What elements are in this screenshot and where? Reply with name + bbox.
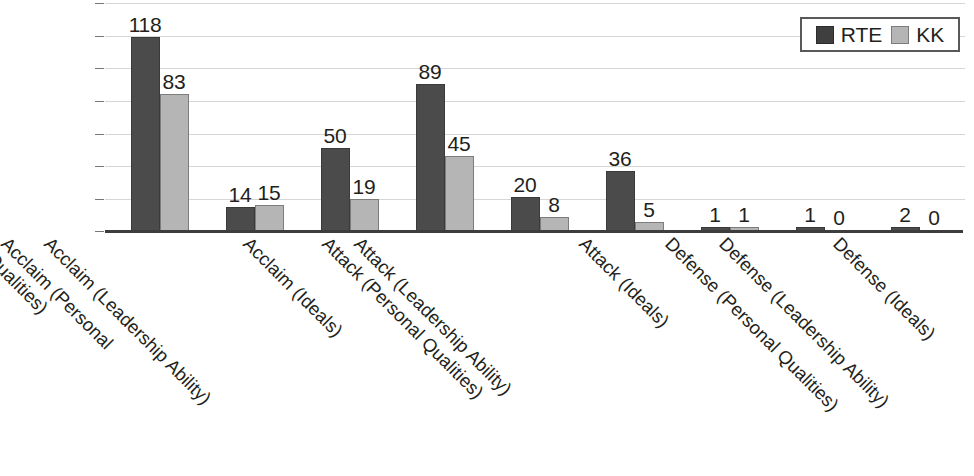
bar-rte[interactable] bbox=[131, 37, 160, 232]
x-axis-label: Attack (Personal Qualities) bbox=[318, 233, 488, 403]
bar-value-label: 118 bbox=[115, 14, 175, 35]
bar-value-label: 36 bbox=[590, 148, 650, 169]
bar-group: 11883 bbox=[131, 3, 189, 232]
bar-group: 1415 bbox=[226, 3, 284, 232]
bar-value-label: 83 bbox=[144, 71, 204, 92]
bar-value-label: 5 bbox=[619, 199, 679, 220]
bar-rte[interactable] bbox=[226, 207, 255, 232]
bar-value-label: 19 bbox=[334, 176, 394, 197]
bar-group: 208 bbox=[511, 3, 569, 232]
bar-value-label: 8 bbox=[524, 194, 584, 215]
legend-label-kk: KK bbox=[916, 24, 944, 45]
y-axis-tick bbox=[95, 134, 104, 135]
bar-value-label: 0 bbox=[809, 207, 869, 228]
bar-value-label: 1 bbox=[714, 204, 774, 225]
bar-rte[interactable] bbox=[416, 84, 445, 232]
legend-swatch-rte-icon bbox=[816, 26, 834, 44]
y-axis-tick bbox=[95, 199, 104, 200]
legend-label-rte: RTE bbox=[841, 24, 883, 45]
bar-value-label: 15 bbox=[239, 182, 299, 203]
y-axis-tick bbox=[95, 166, 104, 167]
x-axis-category-labels: Acclaim (Personal Qualities)Acclaim (Lea… bbox=[0, 233, 974, 476]
y-axis-tick bbox=[95, 68, 104, 69]
x-axis-label: Attack (Leadership Ability) bbox=[350, 233, 516, 399]
legend-entry-rte[interactable]: RTE bbox=[816, 24, 883, 45]
legend-entry-kk[interactable]: KK bbox=[891, 24, 944, 45]
bar-kk[interactable] bbox=[445, 156, 474, 232]
bar-group: 5019 bbox=[321, 3, 379, 232]
y-axis-tick bbox=[95, 231, 104, 232]
legend-swatch-kk-icon bbox=[891, 26, 909, 44]
bar-kk[interactable] bbox=[160, 94, 189, 232]
bar-kk[interactable] bbox=[255, 205, 284, 232]
bar-chart: 11883141550198945208365111020 RTE KK Acc… bbox=[0, 0, 974, 476]
bar-value-label: 0 bbox=[904, 207, 964, 228]
y-axis-tick bbox=[95, 3, 104, 4]
chart-legend: RTE KK bbox=[800, 17, 960, 52]
bar-value-label: 45 bbox=[429, 133, 489, 154]
bar-group: 365 bbox=[606, 3, 664, 232]
bar-group: 8945 bbox=[416, 3, 474, 232]
bar-value-label: 50 bbox=[305, 125, 365, 146]
y-axis-tick bbox=[95, 36, 104, 37]
bar-kk[interactable] bbox=[350, 199, 379, 232]
x-axis-label: Defense (Ideals) bbox=[829, 233, 940, 344]
x-axis-label: Attack (Ideals) bbox=[575, 233, 673, 331]
bar-value-label: 89 bbox=[400, 61, 460, 82]
bar-value-label: 20 bbox=[495, 174, 555, 195]
y-axis-tick bbox=[95, 101, 104, 102]
bar-group: 11 bbox=[701, 3, 759, 232]
